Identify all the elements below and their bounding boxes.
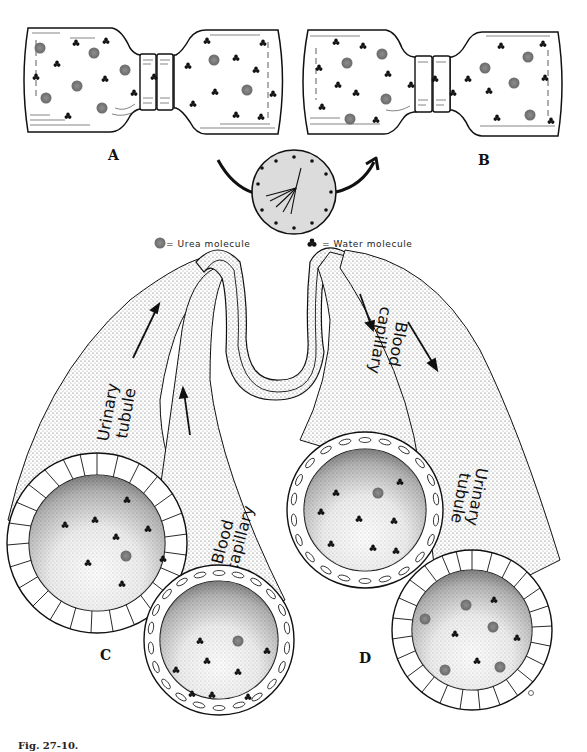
time-clock: [218, 150, 378, 234]
legend-water-label: = Water molecule: [322, 239, 412, 249]
panel-b-vessel: [303, 30, 562, 136]
urea-molecule-icon: [155, 238, 166, 249]
legend-urea-label: = Urea molecule: [166, 239, 250, 249]
countercurrent-diagram: A B: [0, 0, 587, 752]
panel-label-a: A: [107, 147, 120, 163]
d-urinary-cross-section: [392, 550, 552, 710]
panel-label-c: C: [100, 647, 111, 663]
panel-label-b: B: [478, 152, 490, 168]
panel-a-vessel: [24, 28, 283, 134]
legend: = Urea molecule = Water molecule: [155, 238, 413, 250]
water-molecule-icon: [307, 239, 316, 247]
panel-label-d: D: [359, 650, 371, 666]
d-blood-capillary-cross-section: [287, 432, 443, 588]
artist-signature: [529, 691, 534, 696]
figure-caption: Fig. 27-10.: [18, 740, 78, 751]
c-blood-capillary-cross-section: [144, 565, 294, 715]
